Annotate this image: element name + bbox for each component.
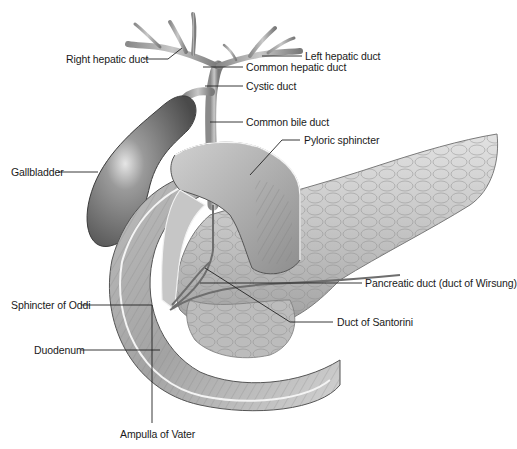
label-cystic-duct: Cystic duct <box>246 80 296 92</box>
label-right-hepatic-duct: Right hepatic duct <box>66 53 148 65</box>
label-duct-of-santorini: Duct of Santorini <box>337 316 413 328</box>
label-common-hepatic-duct: Common hepatic duct <box>246 61 346 73</box>
label-sphincter-of-oddi: Sphincter of Oddi <box>11 299 90 311</box>
label-ampulla-of-vater: Ampulla of Vater <box>120 428 195 440</box>
label-common-bile-duct: Common bile duct <box>246 116 329 128</box>
label-gallbladder: Gallbladder <box>11 166 64 178</box>
label-pyloric-sphincter: Pyloric sphincter <box>304 134 379 146</box>
label-pancreatic-duct: Pancreatic duct (duct of Wirsung) <box>365 277 517 289</box>
label-duodenum: Duodenum <box>34 344 85 356</box>
